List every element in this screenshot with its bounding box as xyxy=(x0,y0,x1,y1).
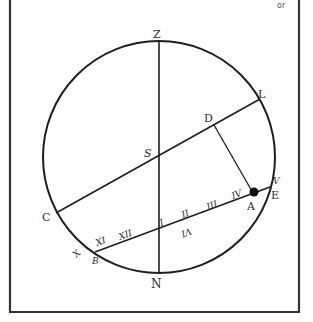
label-l: L xyxy=(258,88,266,101)
label-s: S xyxy=(144,147,152,160)
label-ii: II xyxy=(179,208,190,220)
line-d-a xyxy=(214,125,253,193)
label-v: V xyxy=(273,176,281,186)
diagram-canvas: or Z N L C S D A E V B X XI XII I II III… xyxy=(0,0,313,322)
label-c: C xyxy=(42,211,50,224)
label-a: A xyxy=(246,200,256,213)
label-z: Z xyxy=(153,28,161,41)
label-x: X xyxy=(71,247,83,259)
label-e: E xyxy=(271,189,279,202)
frame-border xyxy=(10,0,299,312)
point-a-dot xyxy=(250,188,259,197)
label-vi: VI xyxy=(179,226,192,239)
line-c-l xyxy=(56,99,260,213)
label-d: D xyxy=(204,112,213,125)
label-xii: XII xyxy=(116,228,133,243)
label-n: N xyxy=(151,277,162,291)
label-iv: IV xyxy=(229,188,244,202)
label-b: B xyxy=(91,256,99,266)
label-xi: XI xyxy=(93,235,107,248)
corner-text: or xyxy=(277,1,286,10)
diagram-figure: or Z N L C S D A E V B X XI XII I II III… xyxy=(0,0,313,322)
